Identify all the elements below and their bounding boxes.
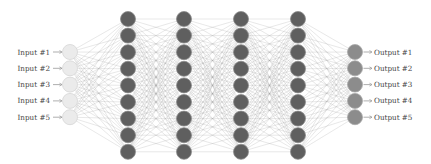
edge <box>70 36 128 118</box>
output-label-3: Output #3 <box>374 80 413 89</box>
hidden-4-node-7 <box>291 111 306 126</box>
edge <box>298 19 355 52</box>
output-arrow-icon-3 <box>364 83 373 86</box>
hidden-1-node-5 <box>121 78 136 93</box>
hidden-2-node-5 <box>177 78 192 93</box>
edge <box>70 19 128 52</box>
output-node-4 <box>348 93 363 108</box>
output-arrow-icon-1 <box>364 51 373 54</box>
hidden-1-node-3 <box>121 45 136 60</box>
hidden-3-node-1 <box>234 12 249 27</box>
input-node-3 <box>63 77 78 92</box>
hidden-2-node-2 <box>177 28 192 43</box>
input-arrow-icon-2 <box>53 67 62 70</box>
input-node-5 <box>63 110 78 125</box>
edge <box>298 36 355 52</box>
edge <box>70 19 128 101</box>
input-node-2 <box>63 61 78 76</box>
output-arrow-icon-2 <box>364 67 373 70</box>
connection-edges <box>70 19 355 152</box>
output-label-4: Output #4 <box>374 96 413 105</box>
input-label-5: Input #5 <box>18 113 51 122</box>
output-label-1: Output #1 <box>374 48 412 57</box>
hidden-3-node-3 <box>234 45 249 60</box>
edge <box>70 102 128 117</box>
hidden-1-node-1 <box>121 12 136 27</box>
hidden-2-node-6 <box>177 95 192 110</box>
input-label-1: Input #1 <box>18 48 50 57</box>
edge <box>70 117 128 135</box>
hidden-2-node-4 <box>177 61 192 76</box>
hidden-1-node-9 <box>121 144 136 159</box>
hidden-1-node-4 <box>121 61 136 76</box>
hidden-1-node-8 <box>121 128 136 143</box>
output-node-2 <box>348 61 363 76</box>
input-arrow-icon-1 <box>53 51 62 54</box>
output-node-1 <box>348 45 363 60</box>
input-labels: Input #1 Input #2 Input #3 Input #4 Inpu… <box>18 48 51 122</box>
hidden-4-node-3 <box>291 45 306 60</box>
input-arrow-icon-3 <box>53 83 62 86</box>
hidden-2-node-7 <box>177 111 192 126</box>
input-arrow-icon-5 <box>53 116 62 119</box>
output-node-5 <box>348 110 363 125</box>
output-arrow-icon-4 <box>364 100 373 103</box>
hidden-1-node-2 <box>121 28 136 43</box>
output-label-5: Output #5 <box>374 113 413 122</box>
hidden-2-node-8 <box>177 128 192 143</box>
hidden-4-node-6 <box>291 95 306 110</box>
input-node-4 <box>63 93 78 108</box>
edge <box>70 19 128 68</box>
hidden-3-node-4 <box>234 61 249 76</box>
output-node-3 <box>348 77 363 92</box>
hidden-3-node-9 <box>234 144 249 159</box>
hidden-3-node-8 <box>234 128 249 143</box>
output-arrow-icon-5 <box>364 116 373 119</box>
hidden-4-node-2 <box>291 28 306 43</box>
hidden-4-node-1 <box>291 12 306 27</box>
input-arrow-icon-4 <box>53 100 62 103</box>
output-labels: Output #1 Output #2 Output #3 Output #4 … <box>374 48 413 122</box>
hidden-3-node-2 <box>234 28 249 43</box>
output-label-2: Output #2 <box>374 64 412 73</box>
hidden-2-node-1 <box>177 12 192 27</box>
hidden-3-node-5 <box>234 78 249 93</box>
hidden-4-node-5 <box>291 78 306 93</box>
neural-network-diagram: Input #1 Input #2 Input #3 Input #4 Inpu… <box>0 0 431 164</box>
input-label-4: Input #4 <box>18 96 51 105</box>
hidden-3-node-6 <box>234 95 249 110</box>
hidden-4-node-8 <box>291 128 306 143</box>
hidden-4-node-9 <box>291 144 306 159</box>
hidden-2-node-9 <box>177 144 192 159</box>
hidden-1-node-6 <box>121 95 136 110</box>
edge <box>70 19 128 117</box>
input-label-3: Input #3 <box>18 80 51 89</box>
hidden-2-node-3 <box>177 45 192 60</box>
hidden-1-node-7 <box>121 111 136 126</box>
hidden-4-node-4 <box>291 61 306 76</box>
input-label-2: Input #2 <box>18 64 50 73</box>
hidden-3-node-7 <box>234 111 249 126</box>
input-node-1 <box>63 45 78 60</box>
